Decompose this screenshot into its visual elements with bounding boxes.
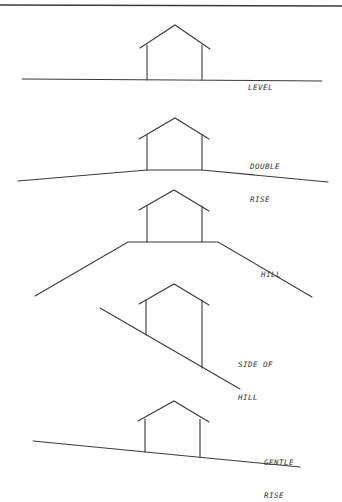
label-line: SIDE OF [238,359,273,370]
label-line: GENTLE [264,457,294,468]
panel-level-drawing [22,25,322,81]
label-side-of-hill: SIDE OF HILL [238,337,273,414]
house-roof [139,190,209,211]
house-roof [140,25,210,49]
house-roof [139,118,209,139]
panel-side-of-hill-drawing [100,284,240,389]
label-line: HILL [238,392,273,403]
label-line: HILL [261,269,281,280]
ground-line [18,170,328,182]
house-roof [138,401,209,422]
label-line: LEVEL [248,82,273,93]
label-line: RISE [250,194,280,205]
label-line: DOUBLE [250,161,280,172]
ground-line [22,79,322,81]
label-line: RISE [264,490,294,501]
label-hill: HILL [261,247,281,291]
house-roof [139,284,209,305]
label-gentle-rise: GENTLE RISE [264,435,294,502]
panel-double-rise-drawing [18,118,328,182]
label-level: LEVEL [248,60,273,104]
top-rule [0,5,342,6]
ground-line [100,308,240,389]
ground-line [33,441,300,467]
label-double-rise: DOUBLE RISE [250,139,280,216]
